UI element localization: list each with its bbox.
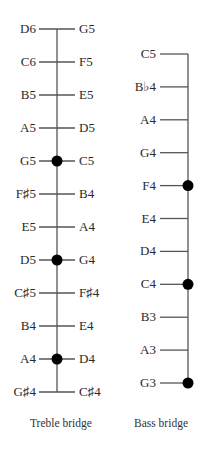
treble-left-note: A5: [20, 121, 36, 135]
treble-left-note: E5: [22, 220, 36, 234]
bass-note: A3: [140, 343, 156, 357]
treble-left-note: D5: [20, 253, 36, 267]
bridge-diagram: D6G5C6F5B5E5A5D5G5C5F♯5B4E5A4D5G4C♯5F♯4B…: [0, 0, 205, 450]
treble-left-note: G♯4: [14, 385, 36, 399]
bridge-pin-dot: [52, 354, 63, 365]
bridge-pin-dot: [52, 255, 63, 266]
treble-right-note: B4: [79, 187, 94, 201]
bass-note: G4: [140, 146, 156, 160]
treble-left-note: B5: [21, 88, 36, 102]
bass-note: G3: [140, 376, 156, 390]
bass-note: E4: [142, 212, 156, 226]
treble-right-note: D5: [79, 121, 95, 135]
bass-note: D4: [140, 244, 156, 258]
bass-note: B3: [141, 310, 156, 324]
treble-right-note: C5: [79, 154, 94, 168]
bass-note: C5: [141, 47, 156, 61]
bass-note: C4: [141, 277, 156, 291]
treble-right-note: C♯4: [79, 385, 101, 399]
bass-note: F4: [142, 179, 156, 193]
treble-right-note: E4: [79, 319, 93, 333]
treble-bridge-caption: Treble bridge: [30, 416, 92, 430]
treble-left-note: D6: [20, 22, 36, 36]
bridge-pin-dot: [183, 378, 194, 389]
treble-left-note: F♯5: [16, 187, 36, 201]
treble-left-note: C6: [21, 55, 36, 69]
treble-right-note: E5: [79, 88, 93, 102]
treble-right-note: A4: [79, 220, 95, 234]
bass-bridge-caption: Bass bridge: [134, 416, 188, 430]
treble-left-note: B4: [21, 319, 36, 333]
treble-right-note: G5: [79, 22, 95, 36]
bridge-pin-dot: [52, 156, 63, 167]
treble-left-note: G5: [20, 154, 36, 168]
bridge-pin-dot: [183, 180, 194, 191]
treble-right-note: D4: [79, 352, 95, 366]
treble-right-note: F5: [79, 55, 93, 69]
bass-note: B♭4: [135, 80, 156, 94]
treble-left-note: C♯5: [14, 286, 36, 300]
treble-left-note: A4: [20, 352, 36, 366]
bass-note: A4: [140, 113, 156, 127]
treble-right-note: G4: [79, 253, 95, 267]
treble-right-note: F♯4: [79, 286, 99, 300]
bridge-pin-dot: [183, 279, 194, 290]
